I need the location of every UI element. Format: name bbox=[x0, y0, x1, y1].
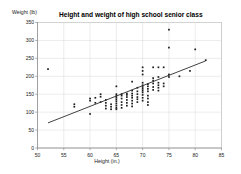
y-tick-label: 250 bbox=[26, 55, 35, 61]
data-point bbox=[100, 93, 102, 95]
data-point bbox=[137, 98, 139, 100]
data-point bbox=[89, 113, 91, 115]
data-point bbox=[142, 82, 144, 84]
data-point bbox=[194, 49, 196, 51]
data-point bbox=[168, 76, 170, 78]
data-point bbox=[105, 102, 107, 104]
y-tick-label: 300 bbox=[26, 37, 35, 43]
data-point bbox=[110, 106, 112, 108]
data-point bbox=[126, 94, 128, 96]
data-point bbox=[147, 85, 149, 87]
data-point bbox=[116, 85, 118, 87]
data-point bbox=[121, 95, 123, 97]
data-point bbox=[105, 105, 107, 107]
data-point bbox=[158, 84, 160, 86]
data-point bbox=[89, 100, 91, 102]
data-point bbox=[142, 100, 144, 102]
x-tick-label: 60 bbox=[87, 152, 93, 158]
data-point bbox=[158, 90, 160, 92]
data-point bbox=[152, 89, 154, 91]
x-axis: 5055606570758085 bbox=[35, 148, 225, 158]
y-axis: 050100150200250300350 bbox=[26, 19, 38, 151]
data-point bbox=[89, 98, 91, 100]
data-point bbox=[142, 66, 144, 68]
data-point bbox=[126, 105, 128, 107]
data-point bbox=[142, 90, 144, 92]
x-tick-label: 70 bbox=[140, 152, 146, 158]
data-point bbox=[142, 86, 144, 88]
y-tick-label: 100 bbox=[26, 109, 35, 115]
x-tick-label: 80 bbox=[192, 152, 198, 158]
data-point bbox=[110, 108, 112, 110]
data-point bbox=[152, 83, 154, 85]
data-point bbox=[147, 91, 149, 93]
x-tick-label: 85 bbox=[219, 152, 225, 158]
data-point bbox=[116, 97, 118, 99]
data-point bbox=[126, 99, 128, 101]
chart-title: Height and weight of high school senior … bbox=[59, 11, 203, 19]
data-point bbox=[121, 98, 123, 100]
data-point bbox=[131, 81, 133, 83]
data-point bbox=[147, 88, 149, 90]
data-point bbox=[142, 70, 144, 72]
data-point bbox=[131, 95, 133, 97]
y-tick-label: 0 bbox=[31, 145, 34, 151]
data-point bbox=[126, 102, 128, 104]
scatter-chart: 050100150200250300350 5055606570758085 H… bbox=[0, 0, 241, 174]
data-point bbox=[168, 47, 170, 49]
x-tick-label: 65 bbox=[114, 152, 120, 158]
data-point bbox=[158, 87, 160, 89]
data-point bbox=[131, 103, 133, 105]
data-point bbox=[137, 101, 139, 103]
data-point bbox=[131, 106, 133, 108]
x-axis-tick-labels: 5055606570758085 bbox=[35, 152, 225, 158]
data-point bbox=[142, 92, 144, 94]
data-point bbox=[168, 29, 170, 31]
data-point bbox=[142, 97, 144, 99]
y-tick-label: 50 bbox=[28, 127, 34, 133]
data-point bbox=[116, 101, 118, 103]
data-point bbox=[152, 86, 154, 88]
data-point bbox=[121, 107, 123, 109]
data-point bbox=[73, 103, 75, 105]
data-point bbox=[142, 94, 144, 96]
data-point bbox=[147, 95, 149, 97]
data-point bbox=[142, 74, 144, 76]
data-point bbox=[110, 103, 112, 105]
trend-line bbox=[48, 61, 206, 123]
vertical-gridlines bbox=[64, 23, 195, 149]
data-point bbox=[94, 97, 96, 99]
x-axis-label: Height (in.) bbox=[94, 158, 120, 164]
data-point bbox=[105, 108, 107, 110]
y-tick-label: 150 bbox=[26, 91, 35, 97]
chart-canvas: 050100150200250300350 5055606570758085 H… bbox=[0, 0, 241, 174]
data-point bbox=[158, 66, 160, 68]
data-point bbox=[121, 101, 123, 103]
data-point bbox=[73, 106, 75, 108]
data-point bbox=[131, 93, 133, 95]
data-point bbox=[94, 102, 96, 104]
data-point bbox=[147, 98, 149, 100]
data-point bbox=[147, 104, 149, 106]
data-point bbox=[152, 77, 154, 79]
data-point bbox=[142, 88, 144, 90]
data-points bbox=[47, 29, 206, 115]
data-point bbox=[158, 76, 160, 78]
y-tick-label: 200 bbox=[26, 73, 35, 79]
data-point bbox=[189, 70, 191, 72]
horizontal-gridlines bbox=[38, 23, 222, 131]
data-point bbox=[137, 91, 139, 93]
y-axis-label: Weight (lb) bbox=[12, 9, 37, 15]
plot-frame bbox=[38, 23, 222, 149]
data-point bbox=[152, 66, 154, 68]
data-point bbox=[47, 68, 49, 70]
data-point bbox=[163, 85, 165, 87]
y-tick-label: 350 bbox=[26, 19, 35, 25]
data-point bbox=[126, 96, 128, 98]
x-tick-label: 75 bbox=[166, 152, 172, 158]
data-point bbox=[131, 97, 133, 99]
data-point bbox=[116, 99, 118, 101]
data-point bbox=[163, 66, 165, 68]
data-point bbox=[121, 104, 123, 106]
y-axis-tick-labels: 050100150200250300350 bbox=[26, 19, 35, 151]
